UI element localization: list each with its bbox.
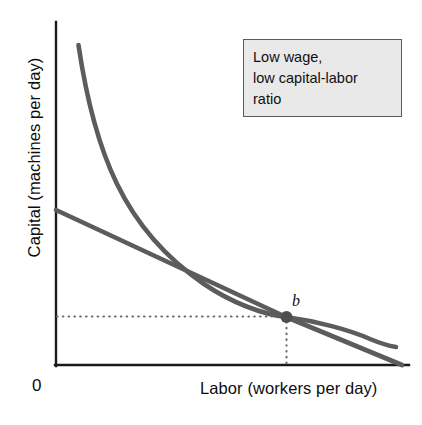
low-wage-annotation-box: Low wage, low capital-labor ratio bbox=[243, 39, 402, 117]
annotation-line-1: Low wage, bbox=[253, 47, 401, 68]
x-axis-title: Labor (workers per day) bbox=[200, 379, 377, 398]
tangency-point-marker bbox=[281, 311, 293, 323]
isocost-line bbox=[56, 210, 402, 365]
tangency-point-label: b bbox=[292, 292, 300, 310]
guide-lines-group bbox=[57, 317, 287, 365]
y-axis-title: Capital (machines per day) bbox=[25, 28, 44, 288]
annotation-line-3: ratio bbox=[253, 89, 401, 110]
annotation-line-2: low capital-labor bbox=[253, 68, 401, 89]
economics-isoquant-figure: Capital (machines per day) Labor (worker… bbox=[0, 0, 422, 425]
origin-label: 0 bbox=[32, 376, 41, 396]
